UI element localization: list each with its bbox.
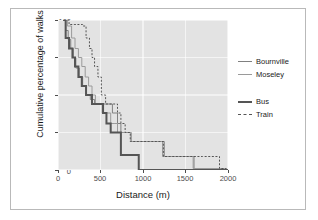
legend-label-moseley: Moseley <box>256 70 284 79</box>
x-tick-mark-0 <box>58 170 59 173</box>
x-tick-label-2000: 2000 <box>213 174 243 183</box>
x-tick-mark-1500 <box>185 170 186 173</box>
legend-item-train[interactable]: Train <box>237 108 307 121</box>
plot-canvas <box>58 20 228 170</box>
chart-figure: Cumulative percentage of walks 100 75 50… <box>10 8 306 210</box>
x-tick-label-0: 0 <box>43 174 73 183</box>
plot-panel <box>58 20 228 170</box>
x-tick-mark-1000 <box>143 170 144 173</box>
legend-item-bus[interactable]: Bus <box>237 95 307 108</box>
legend-key-moseley-icon <box>237 69 253 80</box>
chart-legend: Bournville Moseley Bus Train <box>237 55 307 135</box>
x-tick-mark-500 <box>100 170 101 173</box>
legend-group-mode: Bus Train <box>237 95 307 121</box>
x-tick-label-1000: 1000 <box>128 174 158 183</box>
legend-key-train-icon <box>237 109 253 120</box>
legend-key-bournville-icon <box>237 56 253 67</box>
legend-label-bus: Bus <box>256 97 269 106</box>
legend-group-area: Bournville Moseley <box>237 55 307 81</box>
legend-item-moseley[interactable]: Moseley <box>237 68 307 81</box>
legend-item-bournville[interactable]: Bournville <box>237 55 307 68</box>
x-axis-title: Distance (m) <box>58 189 228 200</box>
legend-key-bus-icon <box>237 96 253 107</box>
x-tick-mark-2000 <box>228 170 229 173</box>
legend-label-bournville: Bournville <box>256 57 289 66</box>
legend-label-train: Train <box>256 110 273 119</box>
y-axis-title: Cumulative percentage of walks <box>35 0 45 149</box>
x-tick-label-1500: 1500 <box>170 174 200 183</box>
gridlines <box>58 20 228 170</box>
x-tick-label-500: 500 <box>85 174 115 183</box>
